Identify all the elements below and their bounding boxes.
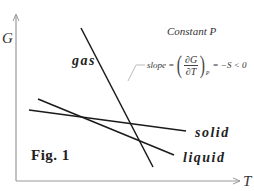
gas-line <box>81 28 153 167</box>
left-paren: ( <box>177 52 182 78</box>
numerator: ∂G <box>184 54 198 66</box>
y-axis-label: G <box>2 31 13 46</box>
x-axis-label: T <box>243 174 251 189</box>
solid-label: solid <box>195 126 230 140</box>
gas-label: gas <box>72 54 96 68</box>
partial-derivative: ∂G ∂T <box>184 54 198 77</box>
figure-label: Fig. 1 <box>31 148 70 163</box>
gibbs-energy-diagram: G T Constant P gas solid liquid Fig. 1 s… <box>0 0 254 191</box>
diagram-title: Constant P <box>167 26 216 37</box>
subscript: P <box>206 70 210 76</box>
denominator: ∂T <box>186 66 197 77</box>
slope-word: slope = <box>147 60 174 70</box>
slope-leader-line <box>128 65 145 81</box>
liquid-label: liquid <box>183 151 225 165</box>
slope-equation: slope = ( ∂G ∂T ) P = −S < 0 <box>147 52 247 78</box>
right-paren: ) <box>200 52 205 78</box>
slope-rhs: = −S < 0 <box>213 60 247 70</box>
